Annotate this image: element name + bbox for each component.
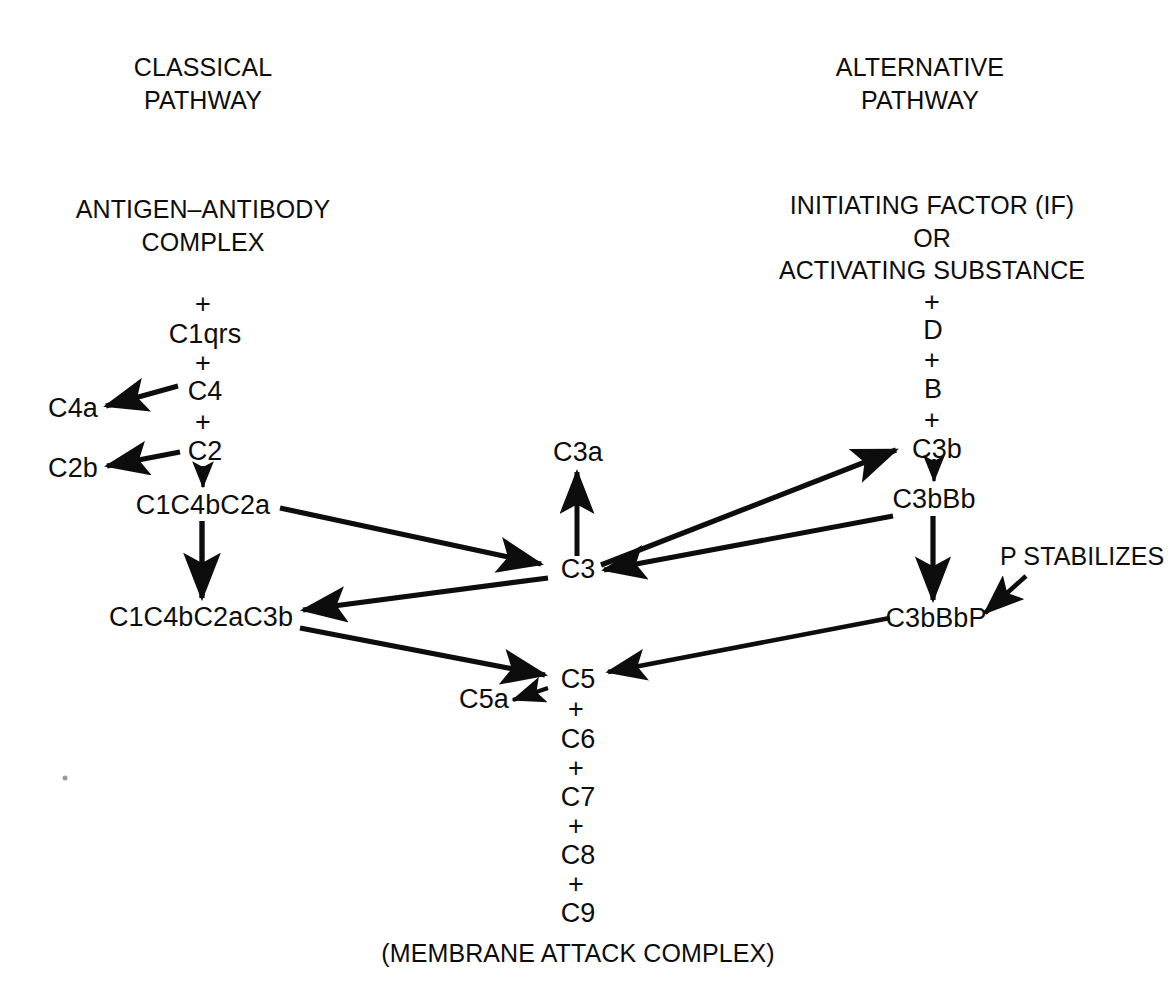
- plus-alternative-1: +: [924, 289, 940, 316]
- heading-alternative-pathway: ALTERNATIVE PATHWAY: [836, 51, 1004, 116]
- node-c3bbbp: C3bBbP: [885, 605, 986, 632]
- edge-c1c4bc2a-to-c3: [280, 508, 541, 564]
- edge-c1c4bc2ac3b-to-c5: [300, 628, 545, 675]
- heading-initiating-factor: INITIATING FACTOR (IF) OR ACTIVATING SUB…: [779, 189, 1085, 287]
- caption-membrane-attack-complex: (MEMBRANE ATTACK COMPLEX): [381, 941, 774, 966]
- node-c1qrs: C1qrs: [169, 321, 242, 348]
- node-c7: C7: [561, 784, 596, 811]
- edge-c2-to-c2b: [107, 452, 180, 466]
- node-c5a: C5a: [459, 686, 509, 713]
- node-c1c4bc2ac3b: C1C4bC2aC3b: [109, 604, 293, 631]
- plus-classical-2: +: [195, 350, 211, 377]
- node-c2: C2: [188, 438, 223, 465]
- node-c8: C8: [561, 842, 596, 869]
- scan-speck: [63, 776, 68, 781]
- plus-mac-3: +: [568, 813, 584, 840]
- plus-classical-3: +: [195, 409, 211, 436]
- plus-mac-1: +: [568, 696, 584, 723]
- node-c6: C6: [561, 726, 596, 753]
- plus-mac-2: +: [568, 755, 584, 782]
- node-c4a: C4a: [48, 395, 98, 422]
- node-c9: C9: [561, 900, 596, 927]
- node-c3bbb: C3bBb: [892, 486, 975, 513]
- complement-pathway-diagram: CLASSICAL PATHWAY ALTERNATIVE PATHWAY AN…: [0, 0, 1170, 987]
- node-c3b: C3b: [912, 436, 962, 463]
- heading-classical-pathway: CLASSICAL PATHWAY: [134, 51, 272, 116]
- node-c4: C4: [188, 378, 223, 405]
- edge-c3bbb-to-c3: [604, 516, 893, 570]
- edge-c5-to-c5a: [513, 688, 548, 700]
- node-c3: C3: [561, 556, 596, 583]
- edge-c3-to-c1c4bc2ac3b: [303, 578, 548, 610]
- edge-p-stabilizes-to-c3bbbp: [985, 576, 1026, 613]
- edge-c3-to-c3b: [601, 450, 896, 565]
- plus-alternative-2: +: [924, 347, 940, 374]
- plus-mac-4: +: [568, 871, 584, 898]
- annotation-p-stabilizes: P STABILIZES: [1000, 544, 1164, 569]
- node-c2b: C2b: [48, 455, 98, 482]
- plus-alternative-3: +: [924, 407, 940, 434]
- edge-c4-to-c4a: [106, 386, 178, 406]
- node-b: B: [924, 376, 942, 403]
- edge-c3bbbp-to-c5: [608, 618, 890, 672]
- node-c3a: C3a: [553, 439, 603, 466]
- heading-antigen-antibody-complex: ANTIGEN–ANTIBODY COMPLEX: [76, 193, 330, 258]
- node-c5: C5: [561, 666, 596, 693]
- node-d: D: [923, 317, 943, 344]
- node-c1c4bc2a: C1C4bC2a: [136, 492, 270, 519]
- plus-classical-1: +: [195, 291, 211, 318]
